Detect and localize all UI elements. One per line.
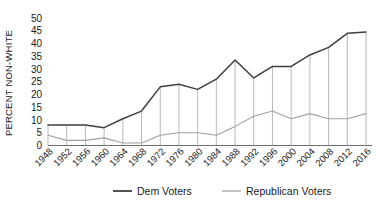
x-tick-label-1952: 1952 [51, 146, 74, 169]
x-tick-label-1956: 1956 [70, 146, 93, 169]
x-tick-label-1968: 1968 [126, 146, 149, 169]
x-tick-label-2012: 2012 [331, 146, 354, 169]
x-tick-label-2016: 2016 [350, 146, 373, 169]
y-tick-label-5: 5 [36, 127, 42, 138]
y-tick-label-30: 30 [31, 64, 43, 75]
x-tick-label-2008: 2008 [313, 146, 336, 169]
chart-legend: Dem VotersRepublican Voters [113, 185, 331, 197]
x-tick-label-1988: 1988 [219, 146, 242, 169]
x-tick-label-1960: 1960 [88, 146, 111, 169]
legend-label-dem-voters: Dem Voters [137, 185, 192, 197]
x-tick-label-1972: 1972 [144, 146, 167, 169]
y-tick-label-45: 45 [31, 25, 43, 36]
droplines [48, 32, 366, 145]
y-tick-label-25: 25 [31, 76, 43, 87]
legend-label-republican-voters: Republican Voters [246, 185, 331, 197]
y-tick-label-15: 15 [31, 102, 43, 113]
line-chart: PERCENT NON-WHITE 05101520253035404550 1… [0, 0, 379, 208]
x-axis-ticks: 1948195219561960196419681972197619801984… [32, 146, 373, 169]
x-tick-label-1980: 1980 [182, 146, 205, 169]
y-tick-label-20: 20 [31, 89, 43, 100]
y-axis-title-group: PERCENT NON-WHITE [3, 30, 14, 136]
y-tick-label-10: 10 [31, 115, 43, 126]
y-tick-label-50: 50 [31, 13, 43, 24]
x-tick-label-2000: 2000 [275, 146, 298, 169]
data-series-group [48, 32, 366, 143]
chart-container: PERCENT NON-WHITE 05101520253035404550 1… [0, 0, 379, 208]
x-tick-label-1976: 1976 [163, 146, 186, 169]
y-axis-title: PERCENT NON-WHITE [3, 30, 14, 136]
x-tick-label-1984: 1984 [201, 146, 224, 169]
x-tick-label-2004: 2004 [294, 146, 317, 169]
x-tick-label-1996: 1996 [257, 146, 280, 169]
y-tick-label-35: 35 [31, 51, 43, 62]
y-axis-ticks: 05101520253035404550 [31, 13, 43, 152]
x-tick-label-1992: 1992 [238, 146, 261, 169]
y-tick-label-40: 40 [31, 38, 43, 49]
y-tick-label-0: 0 [36, 140, 42, 151]
series-line-dem-voters [48, 32, 366, 128]
x-tick-label-1964: 1964 [107, 146, 130, 169]
